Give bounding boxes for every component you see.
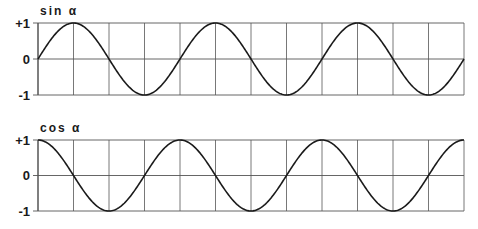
y-tick-label: 0 (23, 52, 30, 67)
y-tick-label: 0 (23, 168, 30, 183)
chart-title: sin α (40, 4, 78, 18)
y-tick-label: +1 (15, 133, 30, 148)
y-tick-label: +1 (15, 16, 30, 31)
sin-panel: +10-1sin α (15, 4, 464, 103)
chart-title: cos α (40, 121, 81, 135)
y-tick-label: -1 (18, 88, 30, 103)
cos-panel: +10-1cos α (15, 121, 464, 219)
sin-cos-chart: +10-1sin α+10-1cos α (0, 0, 478, 229)
y-tick-label: -1 (18, 204, 30, 219)
